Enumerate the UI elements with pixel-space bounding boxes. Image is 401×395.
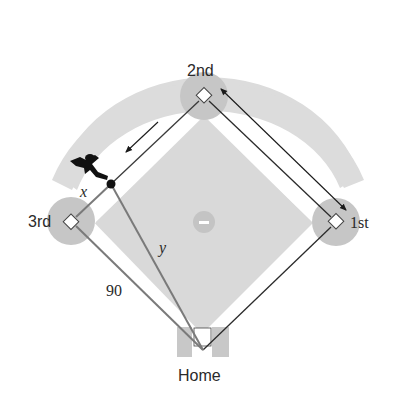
runner-position-dot [107, 180, 116, 189]
label-first: 1st [350, 214, 369, 231]
label-90: 90 [106, 282, 122, 299]
pitcher-rubber [199, 221, 209, 224]
label-home: Home [178, 367, 221, 384]
label-second: 2nd [187, 62, 214, 79]
label-y: y [157, 239, 167, 257]
label-x: x [79, 183, 87, 200]
batter-box-right [212, 327, 229, 357]
baseball-diagram: 2nd 3rd 1st Home x y 90 [0, 0, 401, 395]
label-third: 3rd [28, 213, 51, 230]
